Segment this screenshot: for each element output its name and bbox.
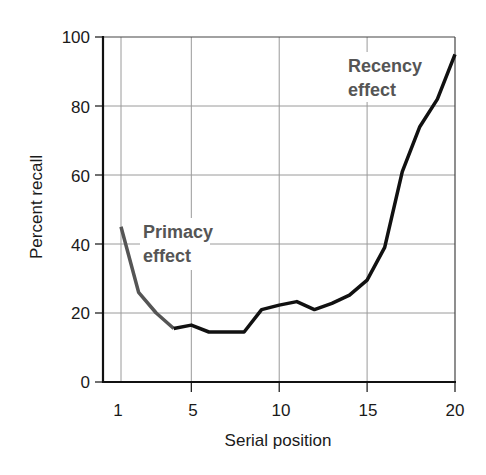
x-tick-label-1: 1 [113,401,122,420]
y-tick-label-60: 60 [71,167,90,186]
primacy-effect-label-line1: Primacy [143,222,213,242]
y-tick-label-20: 20 [71,304,90,323]
primacy-effect-label-line2: effect [143,246,191,266]
y-tick-label-0: 0 [81,373,90,392]
recency-effect-label-line1: Recency [348,56,422,76]
y-tick-label-100: 100 [62,28,90,47]
serial-position-chart: 100 80 60 40 20 0 1 5 10 15 20 Serial po… [0,0,486,475]
x-tick-label-15: 15 [359,401,378,420]
x-axis-title: Serial position [225,431,332,450]
y-tick-label-40: 40 [71,236,90,255]
recency-effect-label-line2: effect [348,80,396,100]
y-axis-title: Percent recall [27,155,46,259]
x-tick-label-10: 10 [272,401,291,420]
x-tick-label-5: 5 [188,401,197,420]
x-tick-label-20: 20 [446,401,465,420]
y-tick-label-80: 80 [71,98,90,117]
